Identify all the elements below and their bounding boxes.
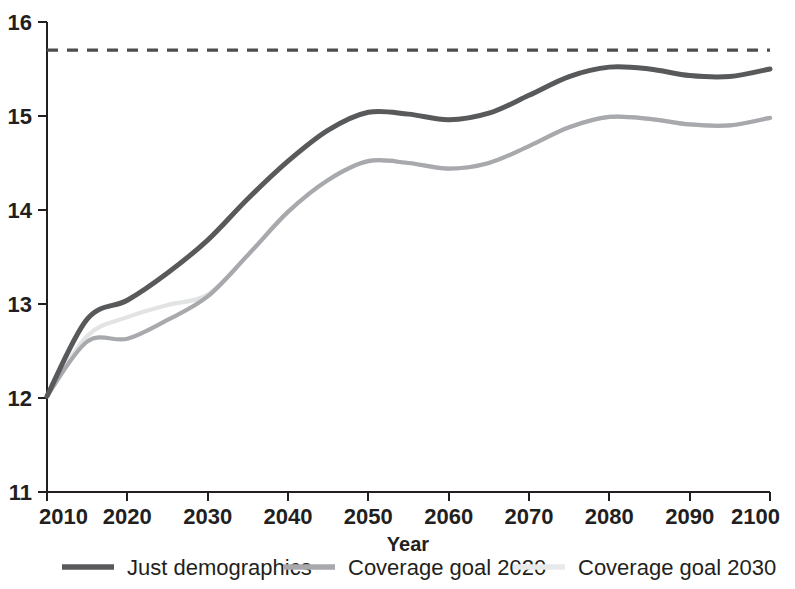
- y-tick-label: 11: [9, 480, 32, 505]
- x-tick-label: 2060: [424, 504, 473, 529]
- legend-item[interactable]: Coverage goal 2020: [283, 555, 546, 580]
- y-tick-label: 15: [8, 104, 32, 129]
- x-tick-label: 2090: [665, 504, 714, 529]
- x-tick-label: 2030: [183, 504, 232, 529]
- series-lines: [47, 67, 770, 396]
- chart-figure: 111213141516 201020202030204020502060207…: [0, 0, 795, 589]
- x-tick-label: 2070: [505, 504, 554, 529]
- x-axis-tick-labels: 2010202020302040205020602070208020902100: [39, 504, 780, 529]
- y-tick-label: 12: [8, 386, 32, 411]
- legend-item[interactable]: Coverage goal 2030: [513, 555, 776, 580]
- y-axis-ticks: [38, 22, 47, 492]
- line-chart: 111213141516 201020202030204020502060207…: [0, 0, 795, 589]
- y-tick-label: 13: [8, 292, 32, 317]
- series-line: [47, 116, 770, 396]
- legend-item[interactable]: Just demographics: [62, 555, 312, 580]
- axes: [47, 22, 770, 492]
- x-tick-label: 2080: [585, 504, 634, 529]
- chart-legend: Just demographicsCoverage goal 2020Cover…: [62, 555, 776, 580]
- x-axis-ticks: [47, 492, 770, 501]
- x-tick-label: 2020: [103, 504, 152, 529]
- y-tick-label: 16: [8, 10, 32, 35]
- x-tick-label: 2040: [264, 504, 313, 529]
- series-line: [47, 116, 770, 396]
- series-line: [47, 67, 770, 396]
- x-axis-title: Year: [387, 533, 429, 555]
- legend-label: Coverage goal 2030: [578, 555, 776, 580]
- y-axis-tick-labels: 111213141516: [8, 10, 33, 505]
- x-tick-label: 2010: [39, 504, 88, 529]
- y-tick-label: 14: [8, 198, 33, 223]
- x-tick-label: 2050: [344, 504, 393, 529]
- x-tick-label: 2100: [731, 504, 780, 529]
